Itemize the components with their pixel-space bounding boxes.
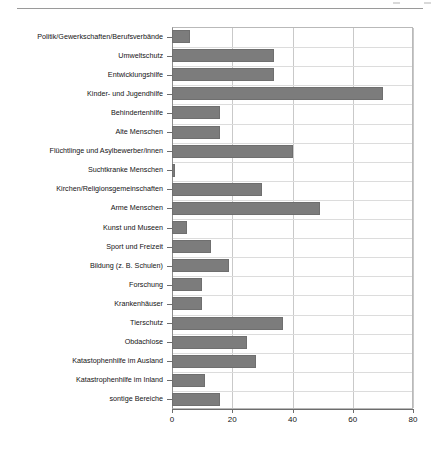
bar-row	[172, 259, 413, 273]
bar	[172, 393, 220, 406]
value-tick-label: 40	[288, 415, 297, 425]
bar-row	[172, 163, 413, 177]
value-tick-mark	[172, 409, 173, 413]
bar-row	[172, 106, 413, 120]
category-axis-ticks	[0, 27, 172, 409]
bar-row	[172, 316, 413, 330]
value-tick-mark	[353, 409, 354, 413]
bar	[172, 317, 283, 330]
bar	[172, 126, 220, 139]
bar	[172, 30, 190, 43]
bar	[172, 164, 175, 177]
bar	[172, 221, 187, 234]
bar-row	[172, 68, 413, 82]
bar	[172, 68, 274, 81]
bar-row	[172, 49, 413, 63]
bar-row	[172, 354, 413, 368]
bar-row	[172, 182, 413, 196]
value-tick-mark	[293, 409, 294, 413]
value-axis-ticks: 020406080	[0, 409, 440, 433]
bar-row	[172, 201, 413, 215]
bar	[172, 145, 293, 158]
bar-row	[172, 144, 413, 158]
bars-layer	[172, 27, 413, 409]
value-tick-label: 0	[170, 415, 174, 425]
bar-row	[172, 125, 413, 139]
bar	[172, 106, 220, 119]
bar	[172, 355, 256, 368]
bar	[172, 374, 205, 387]
bar-row	[172, 278, 413, 292]
bar	[172, 297, 202, 310]
bar	[172, 278, 202, 291]
bar-row	[172, 87, 413, 101]
bar	[172, 259, 229, 272]
bar-chart: Politik/Gewerkschaften/BerufsverbändeUmw…	[0, 0, 440, 451]
bar	[172, 49, 274, 62]
gridline-vertical	[413, 28, 414, 408]
bar-row	[172, 335, 413, 349]
bar	[172, 336, 247, 349]
bar-row	[172, 392, 413, 406]
bar-row	[172, 373, 413, 387]
bar-row	[172, 297, 413, 311]
value-tick-label: 20	[228, 415, 237, 425]
bar-row	[172, 240, 413, 254]
bar-row	[172, 30, 413, 44]
bar	[172, 87, 383, 100]
bar-row	[172, 221, 413, 235]
value-tick-label: 80	[409, 415, 418, 425]
value-tick-mark	[232, 409, 233, 413]
bar	[172, 240, 211, 253]
bar	[172, 183, 262, 196]
value-tick-mark	[413, 409, 414, 413]
value-tick-label: 60	[348, 415, 357, 425]
bar	[172, 202, 320, 215]
page-canvas: Politik/Gewerkschaften/BerufsverbändeUmw…	[0, 0, 440, 451]
